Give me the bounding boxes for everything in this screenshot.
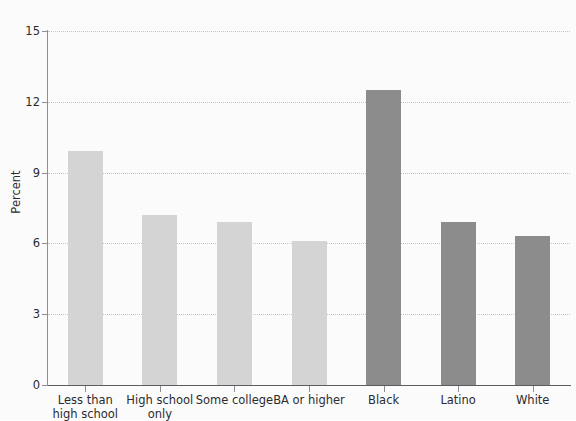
- bars-layer: [48, 31, 570, 385]
- x-axis-tick-mark: [384, 386, 385, 392]
- y-axis-tick-label: 15: [4, 24, 40, 38]
- bar: [292, 241, 327, 385]
- y-axis-tick-mark: [42, 385, 48, 386]
- x-axis-tick-mark: [458, 386, 459, 392]
- chart-title: [8, 0, 568, 3]
- y-axis-tick-mark: [42, 102, 48, 103]
- x-axis-tick-mark: [85, 386, 86, 392]
- bar: [441, 222, 476, 385]
- y-axis-tick-label: 3: [4, 307, 40, 321]
- x-axis-tick-mark: [309, 386, 310, 392]
- x-axis-tick-mark: [160, 386, 161, 392]
- y-axis-tick-mark: [42, 31, 48, 32]
- bar: [515, 236, 550, 385]
- y-axis-tick-label: 9: [4, 166, 40, 180]
- x-axis-tick-label: White: [478, 393, 576, 407]
- bar: [366, 90, 401, 385]
- y-axis-tick-mark: [42, 173, 48, 174]
- bar: [68, 151, 103, 385]
- bar: [217, 222, 252, 385]
- y-axis-tick-labels: 03691215: [0, 0, 40, 420]
- y-axis-tick-mark: [42, 314, 48, 315]
- y-axis-tick-label: 0: [4, 378, 40, 392]
- bar: [142, 215, 177, 385]
- y-axis-tick-mark: [42, 243, 48, 244]
- x-axis-tick-mark: [533, 386, 534, 392]
- y-axis-tick-label: 12: [4, 95, 40, 109]
- x-axis-tick-mark: [234, 386, 235, 392]
- y-axis-tick-label: 6: [4, 236, 40, 250]
